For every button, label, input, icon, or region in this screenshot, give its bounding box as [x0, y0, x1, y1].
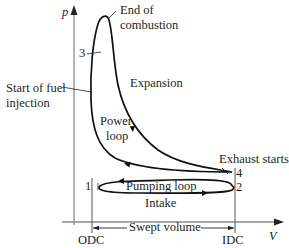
p-axis-arrow-icon: [71, 5, 78, 15]
x-axis-label: V: [269, 229, 277, 244]
intake-label: Intake: [145, 196, 176, 211]
point-4-label: 4: [236, 166, 242, 181]
y-axis-label: p: [62, 5, 68, 20]
start-fuel-leader: [62, 87, 91, 92]
power-loop-label-1: Power: [100, 114, 132, 129]
swept-volume-label: Swept volume: [129, 220, 201, 235]
point-2-label: 2: [236, 180, 242, 195]
point-3-label: 3: [79, 46, 85, 61]
p-axis: [71, 5, 78, 225]
power-loop-label-2: loop: [106, 129, 128, 144]
start-fuel-label-1: Start of fuel: [6, 81, 66, 96]
start-fuel-label-2: injection: [6, 96, 50, 111]
point-3-leader: [87, 52, 101, 54]
pumping-loop-label: Pumping loop: [126, 179, 197, 194]
end-of-combustion-label-1: End of: [120, 3, 154, 18]
end-combustion-leader: [109, 11, 116, 18]
intake-direction-arrow-icon: [202, 190, 208, 196]
v-axis-arrow-icon: [274, 219, 284, 226]
point-1-label: 1: [85, 179, 91, 194]
odc-label: ODC: [78, 233, 104, 248]
end-of-combustion-label-2: combustion: [120, 18, 178, 33]
exhaust-direction-arrow-icon: [118, 178, 124, 184]
power-loop-curve: [91, 16, 232, 172]
exhaust-starts-label: Exhaust starts: [219, 152, 289, 167]
expansion-label: Expansion: [130, 76, 183, 91]
idc-label: IDC: [222, 233, 244, 248]
